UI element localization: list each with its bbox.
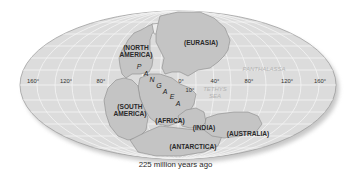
svg-text:0°: 0° bbox=[178, 78, 184, 84]
svg-text:A: A bbox=[175, 100, 181, 107]
svg-text:160°: 160° bbox=[27, 78, 39, 84]
svg-text:120°: 120° bbox=[281, 78, 293, 84]
label-tethys-sea: SEA bbox=[209, 93, 221, 99]
svg-text:80°: 80° bbox=[97, 78, 106, 84]
svg-text:120°: 120° bbox=[60, 78, 72, 84]
map-caption: 225 million years ago bbox=[0, 160, 351, 169]
label-africa: (AFRICA) bbox=[155, 117, 184, 125]
label-australia: (AUSTRALIA) bbox=[227, 130, 270, 138]
latitude-label: 10° bbox=[186, 87, 195, 93]
svg-text:E: E bbox=[170, 93, 175, 100]
svg-text:160°: 160° bbox=[314, 78, 326, 84]
svg-text:P: P bbox=[137, 63, 142, 70]
svg-text:40°: 40° bbox=[211, 78, 220, 84]
svg-text:A: A bbox=[143, 70, 149, 77]
label-india: (INDIA) bbox=[193, 124, 215, 132]
label-eurasia: (EURASIA) bbox=[184, 39, 218, 47]
pangaea-map: (NORTH AMERICA) (EURASIA) (SOUTH AMERICA… bbox=[0, 0, 351, 181]
svg-text:80°: 80° bbox=[245, 78, 254, 84]
label-antarctica: (ANTARCTICA) bbox=[169, 143, 216, 151]
label-north-america-2: AMERICA) bbox=[120, 51, 153, 59]
label-tethys: TETHYS bbox=[203, 86, 227, 92]
label-south-america-2: AMERICA) bbox=[114, 110, 147, 118]
svg-text:A: A bbox=[162, 88, 168, 95]
label-panthalassa: PANTHALASSA bbox=[242, 66, 285, 72]
svg-text:G: G bbox=[156, 82, 162, 89]
